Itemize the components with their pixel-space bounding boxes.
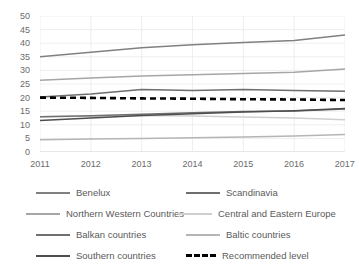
legend-swatch-southern-countries — [36, 255, 70, 257]
legend-swatch-baltic-countries — [186, 234, 220, 236]
legend-label-scandinavia: Scandinavia — [226, 187, 278, 198]
y-axis-tick-20: 20 — [0, 94, 30, 103]
legend-item-northern-western-countries[interactable]: Northern Western Countries — [26, 204, 184, 223]
legend-swatch-balkan-countries — [36, 234, 70, 236]
x-axis-tick-2015: 2015 — [220, 160, 266, 169]
legend-label-central-and-eastern-europe: Central and Eastern Europe — [218, 208, 336, 219]
legend-label-benelux: Benelux — [76, 187, 110, 198]
legend-item-central-and-eastern-europe[interactable]: Central and Eastern Europe — [178, 204, 336, 223]
plot-wrapper: 50 45 40 35 30 25 20 15 10 5 0 2011 2012… — [0, 0, 353, 176]
legend-item-southern-countries[interactable]: Southern countries — [36, 246, 156, 265]
y-axis-tick-30: 30 — [0, 66, 30, 75]
legend-swatch-scandinavia — [186, 192, 220, 194]
legend-label-southern-countries: Southern countries — [76, 250, 156, 261]
legend-row: Benelux Scandinavia — [0, 183, 353, 202]
x-axis-tick-2014: 2014 — [169, 160, 215, 169]
x-axis-tick-2017: 2017 — [322, 160, 359, 169]
legend-row: Southern countries Recommended level — [0, 246, 353, 265]
legend-swatch-central-and-eastern-europe — [178, 213, 212, 215]
y-axis-tick-5: 5 — [0, 134, 30, 143]
chart-legend: Benelux Scandinavia Northern Western Cou… — [0, 183, 353, 265]
x-axis-tick-2012: 2012 — [68, 160, 114, 169]
y-axis-tick-35: 35 — [0, 53, 30, 62]
legend-row: Balkan countries Baltic countries — [0, 225, 353, 244]
legend-item-balkan-countries[interactable]: Balkan countries — [36, 225, 146, 244]
x-axis-tick-2016: 2016 — [271, 160, 317, 169]
legend-label-baltic-countries: Baltic countries — [226, 229, 290, 240]
x-axis-tick-2011: 2011 — [17, 160, 63, 169]
legend-label-recommended-level: Recommended level — [222, 250, 309, 261]
legend-swatch-northern-western-countries — [26, 213, 60, 215]
y-axis-tick-15: 15 — [0, 107, 30, 116]
legend-item-baltic-countries[interactable]: Baltic countries — [186, 225, 290, 244]
series-line-recommended-level — [40, 98, 345, 100]
y-axis-tick-45: 45 — [0, 26, 30, 35]
legend-row: Northern Western Countries Central and E… — [0, 204, 353, 223]
legend-swatch-benelux — [36, 192, 70, 194]
y-axis-tick-10: 10 — [0, 121, 30, 130]
legend-item-benelux[interactable]: Benelux — [36, 183, 110, 202]
series-canvas — [40, 16, 345, 152]
y-axis-tick-25: 25 — [0, 80, 30, 89]
legend-label-northern-western-countries: Northern Western Countries — [66, 208, 184, 219]
y-axis-tick-0: 0 — [0, 148, 30, 157]
plot-area — [40, 16, 345, 152]
y-axis-tick-40: 40 — [0, 39, 30, 48]
legend-item-scandinavia[interactable]: Scandinavia — [186, 183, 278, 202]
legend-label-balkan-countries: Balkan countries — [76, 229, 146, 240]
y-axis-tick-50: 50 — [0, 12, 30, 21]
x-axis-tick-2013: 2013 — [119, 160, 165, 169]
legend-item-recommended-level[interactable]: Recommended level — [186, 246, 309, 265]
legend-swatch-recommended-level — [186, 254, 216, 257]
